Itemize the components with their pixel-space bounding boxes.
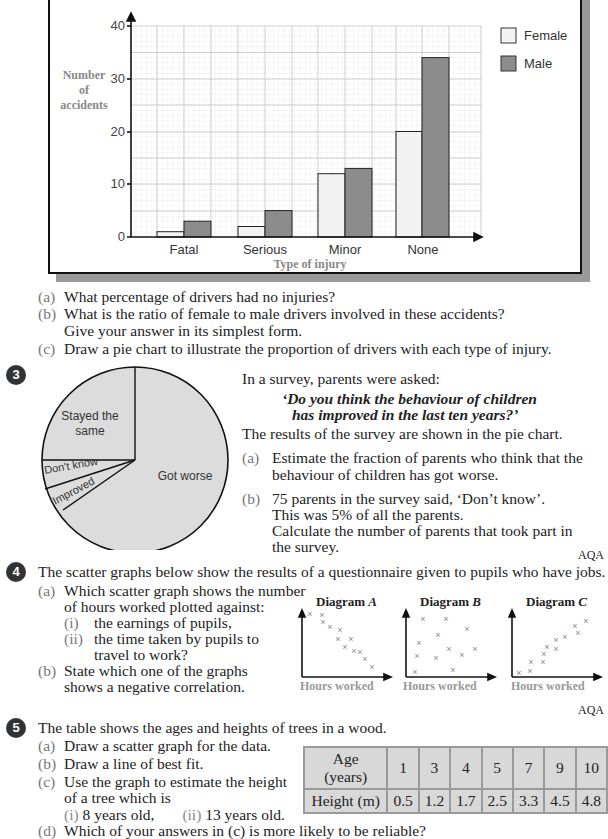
q3-quote-line2: has improved in the last ten years?’	[292, 406, 518, 423]
svg-text:×: ×	[472, 644, 477, 654]
bar-serious-female	[238, 227, 265, 238]
q3-part-a: (a)Estimate the fraction of parents who …	[242, 449, 583, 466]
q4-part-a-ii: (ii)the time taken by pupils to	[64, 630, 259, 647]
pie-chart: Stayed the same Don't know Improved Got …	[0, 360, 280, 550]
svg-text:×: ×	[342, 642, 347, 652]
q2-part-a: (a)What percentage of drivers had no inj…	[38, 288, 335, 305]
svg-text:×: ×	[362, 654, 367, 664]
q3-intro: In a survey, parents were asked:	[242, 370, 440, 387]
q5-intro: The table shows the ages and heights of …	[38, 719, 387, 736]
x-axis-label: Type of injury	[260, 257, 360, 272]
q4-part-a-cont: of hours worked plotted against:	[64, 598, 265, 615]
diagram-b-xlabel: Hours worked	[403, 679, 477, 694]
q3-quote-line1: ‘Do you think the behaviour of children	[282, 390, 537, 407]
q5-part-a: (a)Draw a scatter graph for the data.	[38, 737, 271, 754]
q5-part-d: (d)Which of your answers in (c) is more …	[38, 822, 426, 839]
bar-minor-male	[345, 168, 372, 237]
svg-text:×: ×	[348, 634, 353, 644]
svg-text:×: ×	[443, 614, 448, 624]
svg-text:×: ×	[320, 617, 325, 627]
q4-part-a-i: (i)the earnings of pupils,	[64, 614, 232, 631]
question-number-5: 5	[6, 718, 26, 738]
svg-text:×: ×	[412, 667, 417, 677]
q2-part-b-cont: Give your answer in its simplest form.	[38, 322, 302, 339]
q2-part-c: (c)Draw a pie chart to illustrate the pr…	[38, 340, 552, 357]
svg-text:×: ×	[420, 614, 425, 624]
bar-fatal-male	[184, 221, 211, 237]
q5-part-c-cont: of a tree which is	[64, 789, 171, 806]
q4-intro: The scatter graphs below show the result…	[38, 563, 605, 580]
svg-text:×: ×	[562, 632, 567, 642]
svg-text:×: ×	[553, 644, 558, 654]
q3-part-a-cont: behaviour of children has got worse.	[272, 466, 498, 483]
table-header-age: Age (years)	[304, 747, 387, 789]
q4-part-a-ii-cont: travel to work?	[94, 646, 188, 663]
svg-text:×: ×	[544, 642, 549, 652]
svg-text:×: ×	[575, 628, 580, 638]
question-number-4: 4	[6, 562, 26, 582]
svg-text:×: ×	[433, 653, 438, 663]
svg-text:×: ×	[446, 644, 451, 654]
svg-text:×: ×	[351, 646, 356, 656]
scatter-diagrams: ×××× ×××× ×××× ×××× ×××× ×××× ×××× ×××× …	[290, 605, 608, 685]
bar-chart	[0, 0, 608, 280]
q4-part-b: (b)State which one of the graphs	[38, 662, 248, 679]
svg-text:×: ×	[464, 624, 469, 634]
legend-swatch-male	[501, 56, 516, 71]
y-axis-label: Number of accidents	[55, 68, 113, 113]
diagram-a-xlabel: Hours worked	[300, 679, 374, 694]
table-row-height: Height (m) 0.5 1.2 1.7 2.5 3.3 4.5 4.8	[304, 789, 607, 813]
svg-text:×: ×	[459, 650, 464, 660]
q3-part-b-line4: the survey.	[272, 538, 339, 555]
table-row-age: Age (years) 1 3 4 5 7 9 10	[304, 747, 607, 789]
svg-text:×: ×	[516, 668, 521, 678]
q4-part-b-cont: shows a negative correlation.	[64, 678, 245, 695]
xcat-serious: Serious	[240, 242, 290, 257]
xcat-minor: Minor	[325, 242, 365, 257]
bar-minor-female	[318, 174, 345, 237]
svg-text:Stayed the: Stayed the	[61, 409, 119, 423]
svg-text:×: ×	[327, 622, 332, 632]
legend-label-female: Female	[524, 28, 567, 43]
ytick-20: 20	[105, 124, 125, 139]
q2-part-b: (b)What is the ratio of female to male d…	[38, 305, 505, 322]
xcat-none: None	[403, 242, 443, 257]
q4-part-a: (a)Which scatter graph shows the number	[38, 582, 305, 599]
svg-text:×: ×	[435, 630, 440, 640]
svg-text:×: ×	[369, 662, 374, 672]
ytick-0: 0	[105, 229, 125, 244]
q3-source: AQA	[578, 547, 604, 564]
svg-text:×: ×	[553, 635, 558, 645]
svg-text:×: ×	[307, 609, 312, 619]
xcat-fatal: Fatal	[164, 242, 204, 257]
ytick-40: 40	[105, 18, 125, 33]
svg-text:×: ×	[335, 634, 340, 644]
svg-text:×: ×	[527, 666, 532, 676]
svg-text:same: same	[75, 424, 105, 438]
bar-none-male	[422, 58, 449, 237]
svg-text:Got worse: Got worse	[158, 469, 213, 483]
bar-serious-male	[265, 211, 292, 237]
q3-part-b: (b)75 parents in the survey said, ‘Don’t…	[242, 490, 545, 507]
svg-text:×: ×	[450, 665, 455, 675]
ytick-10: 10	[105, 176, 125, 191]
bar-none-female	[396, 132, 422, 238]
legend-swatch-female	[501, 28, 516, 43]
svg-text:×: ×	[528, 657, 533, 667]
q5-part-c: (c)Use the graph to estimate the height	[38, 773, 287, 790]
tree-data-table: Age (years) 1 3 4 5 7 9 10 Height (m) 0.…	[303, 746, 608, 814]
diagram-c-xlabel: Hours worked	[511, 679, 585, 694]
q3-results: The results of the survey are shown in t…	[242, 425, 563, 442]
svg-text:×: ×	[414, 651, 419, 661]
table-header-height: Height (m)	[304, 789, 387, 813]
q3-part-b-line3: Calculate the number of parents that too…	[272, 522, 572, 539]
q5-part-c-sub: (i) 8 years old,(ii) 13 years old.	[64, 806, 285, 823]
q5-part-b: (b)Draw a line of best fit.	[38, 755, 203, 772]
q4-source: AQA	[578, 702, 604, 719]
svg-text:×: ×	[416, 638, 421, 648]
q3-part-b-line2: This was 5% of all the parents.	[272, 506, 464, 523]
svg-text:×: ×	[583, 616, 588, 626]
legend-label-male: Male	[524, 56, 552, 71]
